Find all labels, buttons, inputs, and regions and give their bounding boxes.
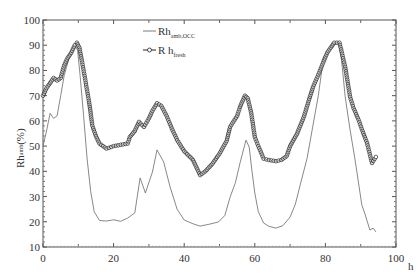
y-tick-label: 20 (29, 216, 41, 228)
series-occ (43, 42, 376, 232)
line-chart: 102030405060708090100 020406080100 Rhamb… (0, 0, 419, 279)
x-tick-label: 20 (108, 252, 120, 264)
data-point (374, 155, 378, 159)
x-tick-label: 80 (320, 252, 332, 264)
legend-label-occ-main: Rh (158, 25, 171, 37)
legend-label-fresh-sub: fresh (174, 52, 186, 58)
y-tick-label: 40 (29, 165, 41, 177)
legend-label-occ: Rhamb,OCC (158, 25, 195, 39)
x-axis-label: h (408, 260, 414, 272)
legend-item-occ: Rhamb,OCC (143, 25, 195, 39)
series-layer (41, 41, 377, 232)
y-tick-label: 80 (29, 64, 41, 76)
x-tick-label: 100 (388, 252, 405, 264)
y-axis-label-main: Rh (14, 155, 26, 168)
series-line (43, 42, 376, 232)
x-tick-label: 60 (249, 252, 261, 264)
y-axis-label: Rhamb(%) (14, 128, 27, 168)
y-tick-label: 30 (29, 191, 41, 203)
series-line (43, 43, 376, 175)
legend-label-fresh: R hfresh (158, 44, 186, 58)
x-tick-label: 0 (40, 252, 46, 264)
legend-item-fresh: R hfresh (143, 44, 186, 58)
y-axis-label-unit: (%) (14, 128, 27, 145)
series-fresh (41, 41, 377, 177)
y-tick-label: 90 (29, 39, 41, 51)
y-tick-label: 50 (29, 140, 41, 152)
legend-label-fresh-main: R h (158, 44, 174, 56)
legend-label-occ-sub: amb,OCC (171, 33, 195, 39)
y-tick-label: 10 (29, 241, 41, 253)
legend: Rhamb,OCC R hfresh (143, 25, 195, 58)
y-axis-label-sub: amb (18, 145, 24, 155)
x-axis: 020406080100 (40, 20, 405, 264)
x-tick-label: 40 (179, 252, 191, 264)
y-tick-label: 70 (29, 90, 41, 102)
legend-marker-fresh (148, 48, 152, 52)
y-tick-label: 100 (24, 14, 41, 26)
y-tick-label: 60 (29, 115, 41, 127)
